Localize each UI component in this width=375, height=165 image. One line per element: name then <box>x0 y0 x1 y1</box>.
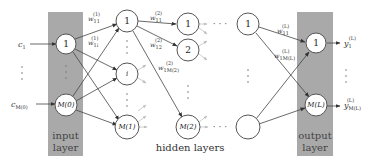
svg-text:M(1): M(1) <box>117 123 135 131</box>
svg-text:1: 1 <box>185 19 191 29</box>
weight-label-w11-1: w11(1) <box>88 11 100 24</box>
output-label-yml: yM(L)(L) <box>343 97 361 111</box>
hidden-ellipsis-top: · · · <box>213 19 227 29</box>
svg-text:1: 1 <box>124 16 130 26</box>
output-layer-label-line2: layer <box>302 142 328 153</box>
svg-text:1: 1 <box>313 38 319 48</box>
hiddenL-vertical-dots <box>247 69 249 83</box>
output-vertical-dots <box>345 69 347 83</box>
weight-label-w1m2-2: w1M(2)(2) <box>158 60 179 73</box>
hiddenL-node-bottom <box>236 115 260 139</box>
weight-label-w1i-1: w1i(1) <box>88 35 99 48</box>
hidden2-node-1: 1 <box>177 13 199 35</box>
output-node-ml: M(L) <box>305 94 327 116</box>
neural-network-diagram: 1 M(0) 1 i M(1) 1 2 M(2) · · · · · · <box>0 0 375 165</box>
hidden1-node-1: 1 <box>116 10 138 32</box>
edge-h1-1-h2-2 <box>137 26 177 46</box>
svg-text:M(L): M(L) <box>306 101 325 109</box>
weight-label-w11-L: w11(L) <box>277 23 289 36</box>
input-label-dots <box>21 66 23 80</box>
hidden2-vertical-dots <box>187 85 189 99</box>
input-layer-label-line1: input <box>52 130 79 141</box>
svg-text:M(0): M(0) <box>56 101 74 109</box>
weight-label-w11-2: w11(2) <box>150 10 162 23</box>
hidden1-node-m1: M(1) <box>115 115 139 139</box>
output-label-y1: y1(L) <box>343 35 356 49</box>
weight-label-w12-2: w12(2) <box>150 37 162 50</box>
input-node-m0: M(0) <box>55 94 77 116</box>
hidden2-node-2: 2 <box>177 39 199 61</box>
output-layer-label-line1: output <box>298 130 331 141</box>
hidden1-node-i: i <box>116 63 138 85</box>
svg-text:2: 2 <box>185 45 191 55</box>
input-node-1: 1 <box>56 34 76 54</box>
input-layer-label-line2: layer <box>53 142 79 153</box>
svg-text:i: i <box>126 70 128 78</box>
input-label-cm0: cM(0) <box>11 100 28 110</box>
output-node-1: 1 <box>306 33 326 53</box>
input-label-c1: c1 <box>18 40 26 50</box>
svg-text:1: 1 <box>245 19 251 29</box>
weight-label-w1ml-L: w1M(L)(L) <box>274 48 295 61</box>
svg-text:M(2): M(2) <box>178 123 196 131</box>
hiddenL-node-1: 1 <box>237 13 259 35</box>
hidden-layers-caption: hidden layers <box>156 142 225 153</box>
hidden-ellipsis-bottom: · · · <box>213 122 227 132</box>
svg-text:1: 1 <box>63 39 69 49</box>
hidden2-node-m2: M(2) <box>176 115 200 139</box>
